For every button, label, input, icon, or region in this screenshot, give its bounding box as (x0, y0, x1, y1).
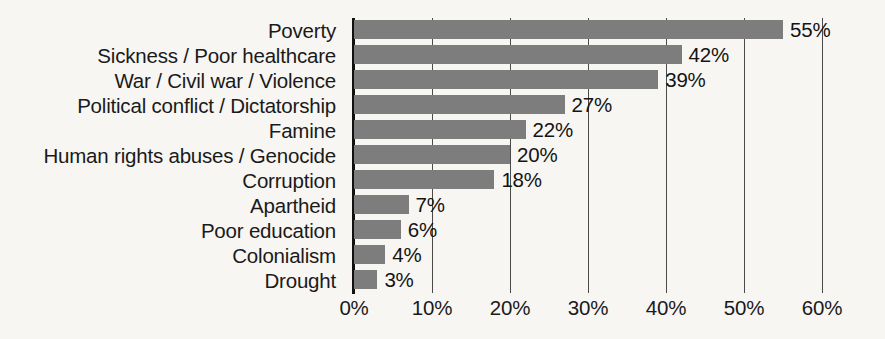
category-label: War / Civil war / Violence (0, 68, 336, 93)
bar-value-label: 22% (533, 118, 573, 143)
bar-value-label: 27% (572, 93, 612, 118)
category-label: Famine (0, 118, 336, 143)
bar-row: 55% (354, 18, 822, 43)
bar (354, 220, 401, 239)
bar-row: 6% (354, 218, 822, 243)
bar-chart: PovertySickness / Poor healthcareWar / C… (0, 0, 885, 339)
bar-row: 7% (354, 193, 822, 218)
bar-value-label: 4% (392, 243, 421, 268)
bar (354, 120, 526, 139)
bar-row: 3% (354, 268, 822, 293)
bar (354, 20, 783, 39)
x-axis-tick-label: 0% (314, 296, 394, 320)
bar-value-label: 20% (517, 143, 557, 168)
bar-row: 42% (354, 43, 822, 68)
bar (354, 245, 385, 264)
plot-area: 55%42%39%27%22%20%18%7%6%4%3% (354, 18, 822, 293)
bar-value-label: 3% (384, 268, 413, 293)
bar-value-label: 6% (408, 218, 437, 243)
bar-value-label: 18% (501, 168, 541, 193)
category-label: Apartheid (0, 193, 336, 218)
bar (354, 270, 377, 289)
bar (354, 170, 494, 189)
bar (354, 95, 565, 114)
x-axis-tick-label: 60% (782, 296, 862, 320)
bar-value-label: 7% (416, 193, 445, 218)
category-axis-labels: PovertySickness / Poor healthcareWar / C… (0, 18, 345, 293)
category-label: Poverty (0, 18, 336, 43)
x-axis-tick-label: 30% (548, 296, 628, 320)
bar-row: 18% (354, 168, 822, 193)
bar (354, 45, 682, 64)
category-label: Colonialism (0, 243, 336, 268)
bar (354, 145, 510, 164)
bar-value-label: 42% (689, 43, 729, 68)
bar-row: 39% (354, 68, 822, 93)
x-axis-tick-label: 40% (626, 296, 706, 320)
bar-row: 22% (354, 118, 822, 143)
category-label: Sickness / Poor healthcare (0, 43, 336, 68)
category-label: Corruption (0, 168, 336, 193)
category-label: Drought (0, 268, 336, 293)
x-axis-tick-label: 50% (704, 296, 784, 320)
gridline (822, 18, 823, 293)
bar-row: 27% (354, 93, 822, 118)
bar (354, 195, 409, 214)
bar-value-label: 39% (665, 68, 705, 93)
category-label: Human rights abuses / Genocide (0, 143, 336, 168)
bar-row: 20% (354, 143, 822, 168)
x-axis-tick-label: 20% (470, 296, 550, 320)
category-label: Political conflict / Dictatorship (0, 93, 336, 118)
bar (354, 70, 658, 89)
bar-value-label: 55% (790, 18, 830, 43)
value-axis-labels: 0%10%20%30%40%50%60% (354, 296, 822, 328)
bar-row: 4% (354, 243, 822, 268)
x-axis-tick-label: 10% (392, 296, 472, 320)
category-label: Poor education (0, 218, 336, 243)
